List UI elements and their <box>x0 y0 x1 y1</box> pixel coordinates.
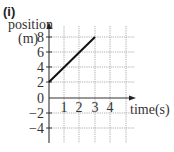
y-tick-2: 2 <box>37 75 44 90</box>
x-tick-2: 2 <box>76 100 83 115</box>
y-tick-4: 4 <box>37 60 44 75</box>
position-line <box>49 37 95 82</box>
y-tick-neg2: −2 <box>29 106 44 121</box>
y-tick-0: 0 <box>37 91 44 106</box>
x-tick-4: 4 <box>107 100 114 115</box>
y-tick-8: 8 <box>37 30 44 45</box>
y-axis-arrow-icon <box>47 22 52 29</box>
chart-plot: 8 6 4 2 0 −2 −4 1 2 3 4 <box>0 0 174 152</box>
x-axis-arrow-icon <box>129 96 136 101</box>
x-tick-3: 3 <box>92 100 99 115</box>
x-tick-1: 1 <box>61 100 68 115</box>
y-tick-6: 6 <box>37 45 44 60</box>
y-tick-neg4: −4 <box>29 121 44 136</box>
grid <box>49 26 135 143</box>
